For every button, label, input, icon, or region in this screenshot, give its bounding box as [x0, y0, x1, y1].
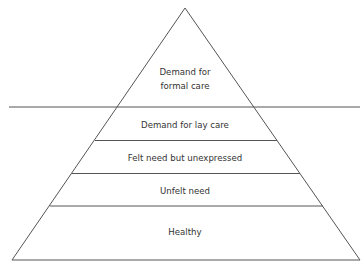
pyramid-diagram: Demand for formal care Demand for lay ca…	[0, 0, 363, 266]
level-label-unfelt-need: Unfelt need	[160, 186, 210, 196]
level-label-healthy: Healthy	[168, 227, 201, 237]
level-label-formal-care-line1: Demand for	[160, 67, 211, 77]
pyramid-outline	[12, 8, 360, 260]
level-label-felt-need: Felt need but unexpressed	[128, 153, 242, 163]
level-label-formal-care-line2: formal care	[160, 81, 209, 91]
level-label-lay-care: Demand for lay care	[141, 120, 229, 130]
